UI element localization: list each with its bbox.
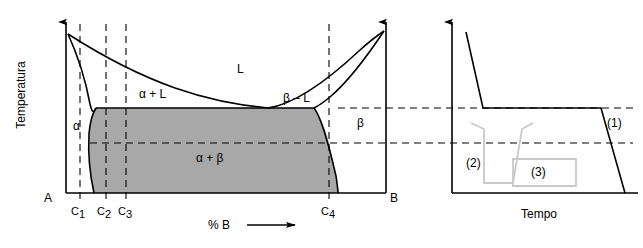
tick-label-c3: C3	[118, 206, 132, 217]
endpoint-label-a: A	[44, 192, 52, 204]
solidus-left	[68, 34, 96, 111]
tick-label-c2-text: C	[97, 205, 105, 217]
region-label-liquid: L	[237, 63, 244, 75]
endpoint-label-b: B	[390, 192, 398, 204]
tick-label-c3-sub: 3	[126, 208, 132, 220]
tick-label-c4-text: C	[321, 205, 329, 217]
solidus-right	[314, 31, 384, 108]
region-label-alpha-plus-liquid: α + L	[139, 88, 166, 100]
cooling-curve-label-1: (1)	[607, 117, 622, 129]
tick-label-c3-text: C	[118, 205, 126, 217]
cooling-curve-2	[471, 123, 533, 183]
tick-label-c1-text: C	[71, 205, 79, 217]
region-label-alpha: α	[73, 120, 80, 132]
region-label-beta-minus-liquid: β – L	[283, 92, 310, 104]
x-axis-label-tempo: Tempo	[521, 208, 557, 220]
tick-label-c4: C4	[321, 206, 335, 217]
region-label-beta: β	[357, 117, 364, 129]
figure-root: Temperatura	[0, 0, 643, 248]
phase-diagram-group	[66, 22, 633, 225]
tick-label-c1: C1	[71, 206, 85, 217]
cooling-curve-label-3: (3)	[531, 166, 546, 178]
tick-label-c1-sub: 1	[79, 208, 85, 220]
cooling-curve-label-2: (2)	[466, 157, 481, 169]
x-axis-label-percent-b: % B	[208, 219, 230, 231]
tick-label-c4-sub: 4	[329, 208, 335, 220]
tick-label-c2: C2	[97, 206, 111, 217]
tick-label-c2-sub: 2	[105, 208, 111, 220]
region-label-alpha-plus-beta: α + β	[196, 152, 224, 164]
